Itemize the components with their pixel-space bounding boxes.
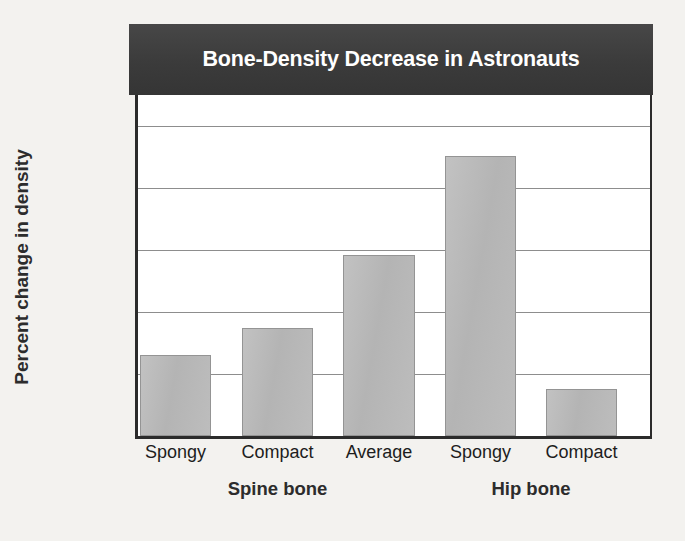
x-tick-label: Average: [346, 442, 413, 463]
x-tick-label: Spongy: [145, 442, 206, 463]
x-tick-label: Spongy: [450, 442, 511, 463]
gridline: [138, 250, 650, 251]
bar[interactable]: [445, 156, 516, 436]
bar[interactable]: [140, 355, 211, 436]
bar[interactable]: [343, 255, 415, 436]
gridline: [138, 126, 650, 127]
gridline: [138, 188, 650, 189]
chart-figure: Bone-Density Decrease in Astronauts Perc…: [0, 0, 685, 541]
x-tick-label: Compact: [545, 442, 617, 463]
plot-area: [138, 95, 650, 436]
group-label: Hip bone: [491, 478, 570, 500]
y-axis-tick-labels: 0.00.51.01.52.02.5: [0, 0, 135, 541]
bar[interactable]: [242, 328, 313, 436]
x-tick-label: Compact: [241, 442, 313, 463]
plot-frame: [135, 95, 652, 439]
bar[interactable]: [546, 389, 617, 436]
chart-title-banner: Bone-Density Decrease in Astronauts: [129, 24, 653, 95]
chart-title: Bone-Density Decrease in Astronauts: [203, 47, 580, 72]
group-label: Spine bone: [228, 478, 328, 500]
